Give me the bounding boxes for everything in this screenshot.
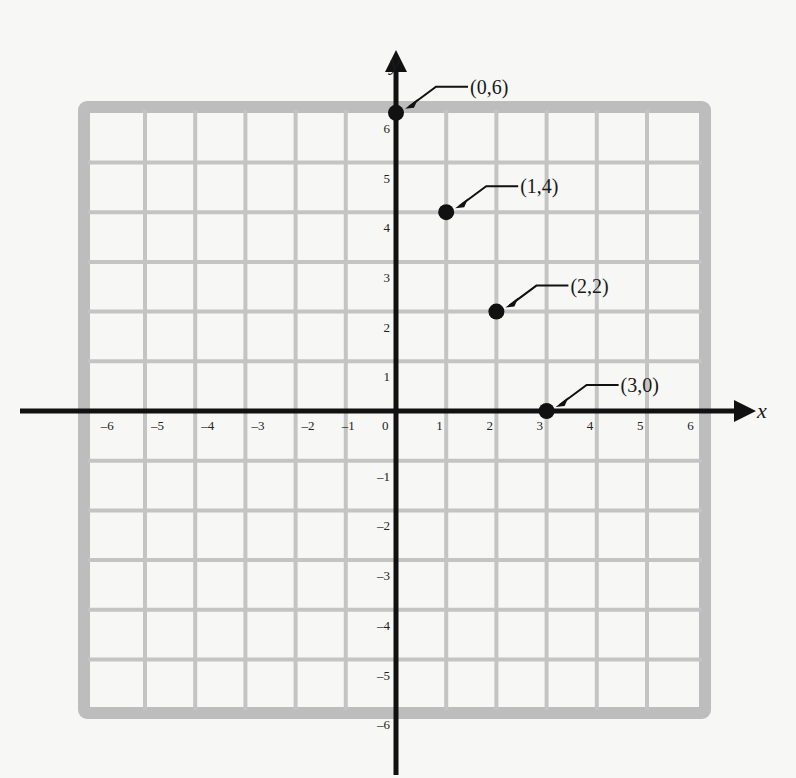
y-axis-label: y <box>388 50 400 75</box>
y-tick-label: 6 <box>384 121 391 136</box>
data-points: (0,6)(1,4)(2,2)(3,0) <box>388 76 659 419</box>
y-tick-label: –4 <box>376 618 391 633</box>
x-axis-label: x <box>756 398 767 423</box>
y-tick-label: –5 <box>376 668 390 683</box>
point-label: (1,4) <box>520 175 558 198</box>
data-point <box>438 204 454 220</box>
x-tick-label: 1 <box>436 418 443 433</box>
y-tick-label: 4 <box>384 220 391 235</box>
y-tick-label: 1 <box>384 369 391 384</box>
x-tick-label: –5 <box>150 418 164 433</box>
x-tick-label: –4 <box>200 418 215 433</box>
annotation-leader <box>560 385 619 405</box>
x-tick-label: –1 <box>341 418 355 433</box>
y-tick-label: –2 <box>376 518 390 533</box>
y-tick-label: 2 <box>384 320 391 335</box>
data-point <box>388 105 404 121</box>
x-tick-label: –3 <box>250 418 264 433</box>
point-label: (3,0) <box>621 374 659 397</box>
point-label: (0,6) <box>470 76 508 99</box>
y-tick-label: 5 <box>384 171 391 186</box>
coordinate-plane: –6–5–4–3–2–10123456 654321–1–2–3–4–5–6 (… <box>0 0 796 778</box>
point-label: (2,2) <box>570 275 608 298</box>
annotation-arrow-icon <box>556 397 569 407</box>
x-tick-label: 2 <box>486 418 493 433</box>
annotation-leader <box>459 186 518 206</box>
annotation-arrow-icon <box>505 298 518 308</box>
x-tick-label: 3 <box>537 418 544 433</box>
x-tick-label: 0 <box>382 418 389 433</box>
y-tick-label: –3 <box>376 568 390 583</box>
annotation-leader <box>509 286 568 306</box>
data-point <box>539 403 555 419</box>
x-tick-label: 4 <box>587 418 594 433</box>
x-tick-label: 5 <box>637 418 644 433</box>
x-axis-arrow-icon <box>734 400 756 422</box>
x-tick-label: 6 <box>687 418 694 433</box>
y-tick-label: 3 <box>384 270 391 285</box>
data-point <box>488 304 504 320</box>
x-tick-label: –2 <box>301 418 315 433</box>
y-tick-label: –1 <box>376 469 390 484</box>
x-tick-label: –6 <box>100 418 115 433</box>
y-tick-label: –6 <box>376 717 391 732</box>
annotation-arrow-icon <box>455 198 468 208</box>
